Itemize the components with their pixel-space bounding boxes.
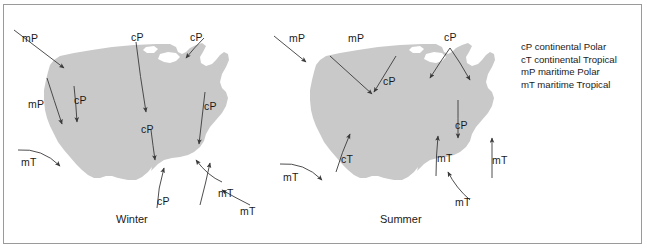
legend-entry-mt: mT maritime Tropical: [521, 79, 617, 92]
air-mass-label: mP: [289, 33, 305, 44]
maps-vector-layer: [0, 0, 647, 251]
air-mass-label: mP: [28, 99, 44, 110]
air-mass-label: cP: [131, 32, 144, 43]
air-mass-label: cP: [157, 196, 170, 207]
air-mass-label: mT: [283, 172, 299, 183]
air-mass-label: cP: [204, 101, 217, 112]
air-mass-label: cP: [444, 32, 457, 43]
air-mass-label: mT: [492, 155, 508, 166]
legend: cP continental Polar cT continental Trop…: [521, 41, 617, 91]
legend-entry-cp: cP continental Polar: [521, 41, 617, 54]
legend-entry-ct: cT continental Tropical: [521, 54, 617, 67]
air-mass-label: cP: [455, 120, 468, 131]
air-mass-label: cP: [141, 124, 154, 135]
summer-map-caption: Summer: [380, 213, 422, 225]
air-mass-label: mT: [455, 197, 471, 208]
air-mass-label: mP: [22, 33, 38, 44]
air-mass-label: cP: [74, 95, 87, 106]
air-mass-label: mT: [21, 157, 37, 168]
air-mass-label: mT: [437, 153, 453, 164]
air-mass-label: cP: [383, 76, 396, 87]
air-mass-label: mT: [218, 188, 234, 199]
winter-map-caption: Winter: [116, 213, 148, 225]
figure-root: mP cP cP mP cP cP cP mT cP mT mT mP mP c…: [0, 0, 647, 251]
air-mass-label: cP: [190, 32, 203, 43]
air-mass-label: cT: [341, 154, 353, 165]
air-mass-label: mP: [348, 33, 364, 44]
air-mass-label: mT: [240, 206, 256, 217]
legend-entry-mp: mP maritime Polar: [521, 66, 617, 79]
